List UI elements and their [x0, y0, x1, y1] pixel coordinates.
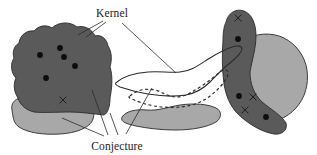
right-kernel-dot-2	[236, 93, 242, 99]
kernel-leader-right	[122, 23, 176, 73]
left-kernel-dot-5	[43, 75, 49, 81]
right-kernel-dot-3	[263, 114, 269, 120]
right-kernel-dot-1	[235, 36, 241, 42]
left-kernel-dot-1	[37, 52, 43, 58]
left-kernel-dot-4	[72, 63, 78, 69]
left-kernel-dot-3	[61, 54, 67, 60]
kernel-label: Kernel	[96, 7, 128, 19]
conjecture-leader-middle	[110, 113, 118, 135]
left-kernel-dot-2	[57, 45, 63, 51]
conjecture-label: Conjecture	[91, 140, 142, 153]
kernel-conjecture-diagram: Kernel Conjecture	[0, 0, 317, 155]
diagram-canvas: Kernel Conjecture	[0, 0, 317, 155]
